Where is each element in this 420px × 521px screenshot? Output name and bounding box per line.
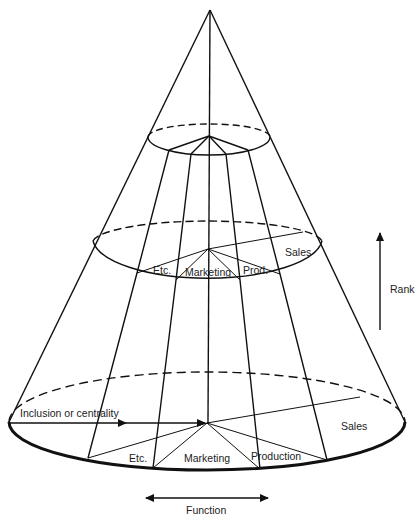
base-label-marketing: Marketing bbox=[184, 452, 230, 464]
base-label-sales: Sales bbox=[341, 420, 367, 432]
rank-label: Rank bbox=[390, 283, 415, 295]
cone-diagram: Etc. Marketing Prod. Sales Etc. Marketin… bbox=[0, 0, 420, 521]
function-label: Function bbox=[186, 504, 226, 516]
top-hub-spokes bbox=[169, 136, 248, 154]
cone-central-axis bbox=[208, 10, 210, 423]
middle-ellipse-back bbox=[93, 221, 322, 241]
middle-label-prod: Prod. bbox=[243, 264, 268, 276]
middle-label-marketing: Marketing bbox=[185, 266, 231, 278]
diagram-canvas: Etc. Marketing Prod. Sales Etc. Marketin… bbox=[0, 0, 420, 521]
base-label-production: Production bbox=[251, 450, 301, 462]
cone-left-edge bbox=[9, 10, 210, 422]
inclusion-label: Inclusion or centrality bbox=[20, 407, 119, 419]
middle-label-sales: Sales bbox=[285, 246, 311, 258]
cone-right-edge bbox=[210, 10, 405, 422]
base-label-etc: Etc. bbox=[129, 452, 147, 464]
middle-label-etc: Etc. bbox=[153, 264, 171, 276]
